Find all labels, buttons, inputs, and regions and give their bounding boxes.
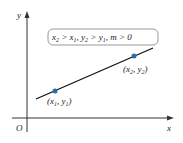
point-1 [53,89,58,94]
y-axis-arrow-icon [25,11,30,18]
condition-text: x2 > x1, y2 > y1, m > 0 [51,32,132,43]
x-axis-label: x [166,123,171,133]
origin-label: O [16,123,23,133]
point-2-label: (x2, y2) [123,64,148,75]
line-slope-diagram: y x O x2 > x1, y2 > y1, m > 0 (x1, y1) (… [0,0,183,143]
point-1-label: (x1, y1) [47,96,72,107]
x-axis-arrow-icon [167,116,174,121]
point-2 [132,54,137,59]
y-axis-label: y [16,10,21,20]
